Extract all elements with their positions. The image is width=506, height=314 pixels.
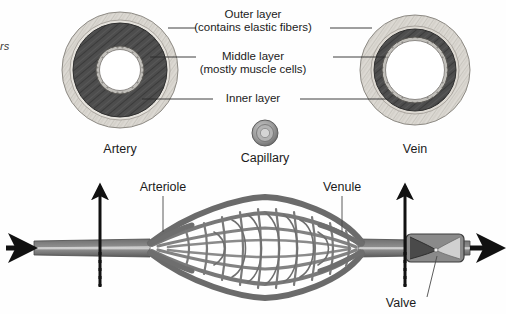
callout-middle-layer-line2: (mostly muscle cells) xyxy=(200,63,307,76)
label-valve: Valve xyxy=(386,296,416,310)
callout-outer-layer: Outer layer (contains elastic fibers) xyxy=(194,8,312,34)
label-arteriole: Arteriole xyxy=(140,180,187,194)
callout-inner-layer: Inner layer xyxy=(226,92,280,105)
label-vein: Vein xyxy=(403,142,427,156)
artery-cross-section xyxy=(62,12,178,128)
clipped-edge-note: rs xyxy=(0,40,9,53)
label-capillary: Capillary xyxy=(241,151,290,165)
callout-inner-layer-line1: Inner layer xyxy=(226,92,280,105)
venous-valve xyxy=(406,234,464,262)
callout-middle-layer-line1: Middle layer xyxy=(200,50,307,63)
callout-outer-layer-line1: Outer layer xyxy=(194,8,312,21)
capillary-cross-section xyxy=(252,120,278,146)
vein-cross-section xyxy=(360,15,470,125)
callout-outer-layer-line2: (contains elastic fibers) xyxy=(194,21,312,34)
blood-vessel-anatomy-figure: rs Outer layer (contains elastic fibers)… xyxy=(0,0,506,314)
label-venule: Venule xyxy=(323,180,361,194)
capillary-bed xyxy=(150,197,362,298)
callout-middle-layer: Middle layer (mostly muscle cells) xyxy=(200,50,307,76)
label-artery: Artery xyxy=(103,142,136,156)
